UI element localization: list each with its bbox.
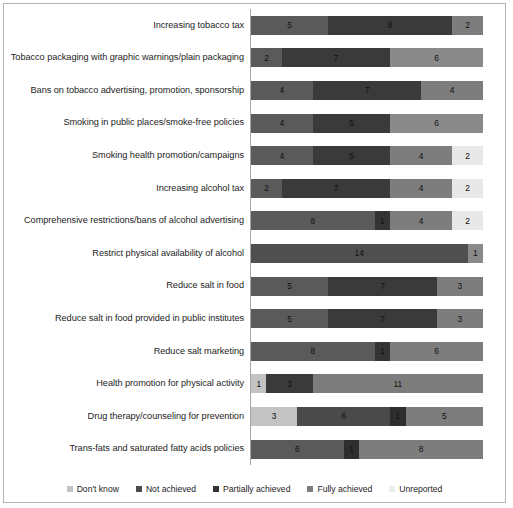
legend-item[interactable]: Not achieved [136, 484, 196, 494]
bar-segment: 7 [282, 179, 390, 198]
bar-segment: 2 [452, 16, 483, 35]
bar-segment: 5 [406, 407, 483, 426]
legend-label: Unreported [399, 484, 442, 494]
stacked-bar: 474 [251, 81, 483, 100]
bar-segment-value: 4 [419, 151, 424, 161]
bar-segment-value: 8 [311, 346, 316, 356]
bar-track: 816 [250, 335, 505, 368]
chart-row: Tobacco packaging with graphic warnings/… [4, 42, 505, 75]
bar-segment: 8 [251, 211, 375, 230]
bar-segment: 1 [344, 440, 359, 459]
bar-segment-value: 8 [419, 444, 424, 454]
bar-track: 141 [250, 237, 505, 270]
legend-item[interactable]: Unreported [389, 484, 442, 494]
bar-segment-value: 7 [380, 281, 385, 291]
stacked-bar: 582 [251, 16, 483, 35]
bar-segment-value: 1 [380, 346, 385, 356]
category-label: Health promotion for physical activity [4, 378, 250, 389]
bar-track: 474 [250, 74, 505, 107]
chart-row: Reduce salt in food573 [4, 270, 505, 303]
bar-segment: 4 [251, 81, 313, 100]
category-label: Smoking in public places/smoke-free poli… [4, 117, 250, 128]
stacked-bar: 456 [251, 114, 483, 133]
chart-row: Restrict physical availability of alcoho… [4, 237, 505, 270]
bar-segment: 4 [421, 81, 483, 100]
stacked-bar: 4542 [251, 146, 483, 165]
chart-container: Increasing tobacco tax582Tobacco packagi… [3, 3, 506, 503]
category-label: Comprehensive restrictions/bans of alcoh… [4, 215, 250, 226]
bar-segment: 3 [437, 277, 483, 296]
category-label: Tobacco packaging with graphic warnings/… [4, 52, 250, 63]
legend-label: Don't know [77, 484, 119, 494]
bar-segment-value: 5 [287, 20, 292, 30]
legend-swatch-icon [67, 486, 73, 492]
bar-segment-value: 2 [264, 53, 269, 63]
bar-segment: 3 [251, 407, 297, 426]
bar-segment: 3 [266, 374, 312, 393]
bar-segment: 8 [359, 440, 483, 459]
chart-row: Drug therapy/counseling for prevention36… [4, 400, 505, 433]
bar-segment-value: 2 [465, 216, 470, 226]
bar-segment-value: 3 [457, 281, 462, 291]
stacked-bar: 3615 [251, 407, 483, 426]
bar-segment-value: 2 [465, 20, 470, 30]
bar-track: 573 [250, 270, 505, 303]
legend-item[interactable]: Partially achieved [213, 484, 290, 494]
bar-segment: 1 [468, 244, 483, 263]
category-label: Trans-fats and saturated fatty acids pol… [4, 443, 250, 454]
bar-segment: 5 [251, 16, 328, 35]
bar-segment: 2 [251, 48, 282, 67]
bar-track: 3615 [250, 400, 505, 433]
bar-segment-value: 2 [264, 183, 269, 193]
legend-swatch-icon [389, 486, 395, 492]
bar-segment: 6 [390, 114, 483, 133]
bar-segment-value: 6 [341, 411, 346, 421]
bar-segment-value: 14 [355, 248, 364, 258]
bar-segment-value: 8 [388, 20, 393, 30]
bar-track: 582 [250, 9, 505, 42]
bar-segment: 8 [328, 16, 452, 35]
legend-item[interactable]: Fully achieved [307, 484, 372, 494]
bar-track: 618 [250, 433, 505, 466]
bar-segment-value: 8 [311, 216, 316, 226]
bar-segment: 11 [313, 374, 483, 393]
bar-track: 1311 [250, 368, 505, 401]
category-label: Increasing tobacco tax [4, 20, 250, 31]
stacked-bar: 2742 [251, 179, 483, 198]
bar-segment-value: 5 [287, 314, 292, 324]
bar-segment: 2 [452, 179, 483, 198]
bar-segment-value: 4 [280, 118, 285, 128]
category-label: Bans on tobacco advertising, promotion, … [4, 85, 250, 96]
chart-row: Reduce salt marketing816 [4, 335, 505, 368]
bar-segment: 3 [437, 309, 483, 328]
bar-track: 8142 [250, 205, 505, 238]
bar-segment-value: 1 [473, 248, 478, 258]
bar-segment: 14 [251, 244, 468, 263]
bar-segment-value: 4 [450, 85, 455, 95]
legend-item[interactable]: Don't know [67, 484, 119, 494]
bar-segment-value: 1 [396, 411, 401, 421]
bar-segment-value: 4 [419, 216, 424, 226]
bar-segment: 6 [297, 407, 390, 426]
bar-track: 456 [250, 107, 505, 140]
bar-segment-value: 7 [334, 53, 339, 63]
bar-track: 2742 [250, 172, 505, 205]
bar-segment-value: 5 [349, 118, 354, 128]
bar-segment-value: 1 [256, 379, 261, 389]
bar-segment: 5 [251, 277, 328, 296]
bar-segment: 4 [251, 114, 313, 133]
bar-segment: 2 [251, 179, 282, 198]
chart-row: Reduce salt in food provided in public i… [4, 302, 505, 335]
legend-label: Partially achieved [223, 484, 290, 494]
bar-segment-value: 1 [349, 444, 354, 454]
chart-row: Smoking health promotion/campaigns4542 [4, 139, 505, 172]
category-label: Restrict physical availability of alcoho… [4, 248, 250, 259]
bar-segment: 6 [390, 342, 483, 361]
bar-segment-value: 2 [465, 183, 470, 193]
bar-segment: 5 [251, 309, 328, 328]
stacked-bar: 276 [251, 48, 483, 67]
bar-segment-value: 6 [434, 53, 439, 63]
stacked-bar: 618 [251, 440, 483, 459]
stacked-bar: 573 [251, 277, 483, 296]
legend-swatch-icon [307, 486, 313, 492]
